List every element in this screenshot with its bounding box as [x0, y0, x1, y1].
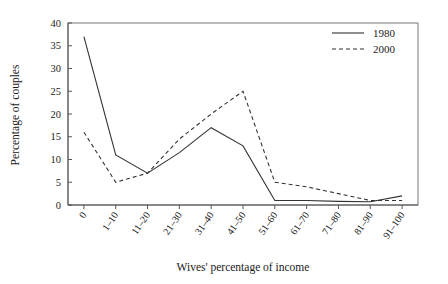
line-chart: 0510152025303540 01–1011–2021–3031–4041–… [0, 0, 448, 284]
x-tick-label: 1–10 [100, 210, 120, 233]
x-tick-label: 61–70 [288, 210, 311, 237]
x-tick-label: 41–50 [224, 210, 247, 237]
x-tick-label: 0 [77, 210, 89, 220]
x-axis-title: Wives' percentage of income [177, 261, 310, 274]
plot-frame [68, 23, 418, 205]
series-line-1980 [84, 37, 402, 202]
y-tick-label: 35 [51, 40, 62, 51]
y-tick-label: 20 [51, 109, 62, 120]
x-tick-label: 21–30 [161, 210, 184, 237]
x-tick-label: 81–90 [352, 210, 375, 237]
x-tick-label: 31–40 [192, 210, 215, 237]
y-tick-label: 40 [51, 18, 62, 29]
y-axis: 0510152025303540 [51, 18, 73, 211]
x-tick-label: 11–20 [129, 210, 152, 236]
x-tick-label: 91–100 [381, 210, 407, 241]
y-tick-label: 5 [56, 177, 61, 188]
data-series-group [84, 37, 402, 202]
x-tick-label: 51–60 [256, 210, 279, 237]
chart-legend: 19802000 [332, 27, 396, 55]
y-tick-label: 30 [51, 63, 62, 74]
legend-label-2000: 2000 [373, 43, 396, 55]
x-axis: 01–1011–2021–3031–4041–5051–6061–7071–80… [68, 205, 418, 241]
y-axis-title: Percentage of couples [9, 64, 22, 165]
y-tick-label: 25 [51, 86, 62, 97]
y-tick-label: 15 [51, 131, 62, 142]
plot-area-border [68, 23, 418, 205]
y-tick-label: 0 [56, 200, 61, 211]
x-tick-label: 71–80 [320, 210, 343, 237]
y-tick-label: 10 [51, 154, 62, 165]
legend-label-1980: 1980 [373, 27, 396, 39]
chart-figure: 0510152025303540 01–1011–2021–3031–4041–… [0, 0, 448, 284]
